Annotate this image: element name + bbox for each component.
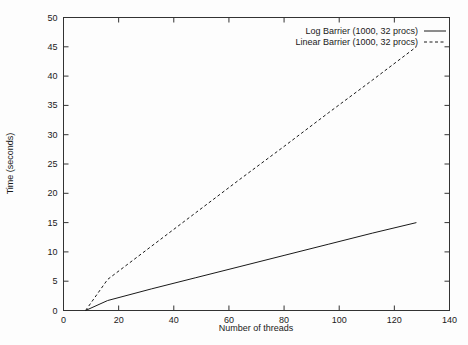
y-tick-label: 15 [47,218,57,228]
x-tick-label: 40 [169,315,179,325]
y-tick-label: 35 [47,100,57,110]
y-tick-label: 40 [47,71,57,81]
line-chart: 02040608010012014005101520253035404550 L… [0,0,468,345]
plot-frame [64,18,450,311]
tick-marks [64,18,450,311]
x-tick-label: 0 [61,315,66,325]
y-tick-label: 50 [47,13,57,23]
series-line-linear-barrier-1000-32-procs [86,47,417,311]
legend-label: Linear Barrier (1000, 32 procs) [295,37,418,47]
y-tick-label: 0 [52,306,57,316]
series-line-log-barrier-1000-32-procs [86,223,417,311]
x-tick-label: 100 [332,315,347,325]
x-tick-label: 120 [387,315,402,325]
y-axis-label: Time (seconds) [5,133,15,195]
y-tick-label: 20 [47,188,57,198]
data-series [86,47,417,311]
x-axis-label: Number of threads [219,323,294,333]
legend-label: Log Barrier (1000, 32 procs) [305,26,418,36]
y-tick-label: 45 [47,42,57,52]
legend: Log Barrier (1000, 32 procs)Linear Barri… [295,26,446,47]
y-tick-label: 30 [47,130,57,140]
x-tick-label: 20 [114,315,124,325]
x-tick-label: 140 [442,315,457,325]
tick-labels: 02040608010012014005101520253035404550 [47,13,457,325]
plot-canvas: 02040608010012014005101520253035404550 L… [0,0,468,345]
y-tick-label: 25 [47,159,57,169]
y-tick-label: 5 [52,276,57,286]
y-tick-label: 10 [47,247,57,257]
